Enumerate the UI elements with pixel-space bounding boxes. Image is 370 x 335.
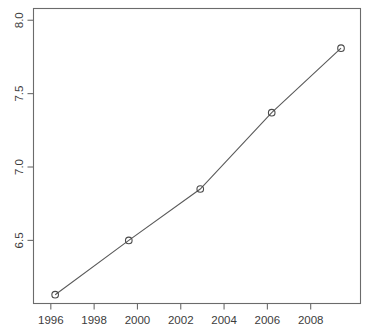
x-tick-label: 2006 [255,314,281,326]
chart-container: 1996199820002002200420062008 6.57.07.58.… [0,0,370,335]
x-tick-label: 2004 [211,314,237,326]
x-tick-label: 2002 [168,314,194,326]
series-polyline [55,48,341,295]
y-axis-tick-labels: 6.57.07.58.0 [13,12,25,248]
y-tick-label: 6.5 [13,232,25,248]
y-tick-label: 7.0 [13,159,25,175]
y-tick-label: 8.0 [13,12,25,28]
x-tick-label: 1996 [38,314,64,326]
plot-frame [34,9,361,304]
y-axis-ticks [28,20,34,240]
x-tick-label: 1998 [81,314,107,326]
line-chart-plot: 1996199820002002200420062008 6.57.07.58.… [0,0,370,335]
plot-border [34,9,361,304]
x-tick-label: 2008 [298,314,324,326]
x-axis-tick-labels: 1996199820002002200420062008 [38,314,323,326]
x-tick-label: 2000 [125,314,151,326]
x-axis-ticks [51,304,311,310]
y-tick-label: 7.5 [13,86,25,102]
data-series-markers [52,45,344,298]
data-series-line [55,48,341,295]
